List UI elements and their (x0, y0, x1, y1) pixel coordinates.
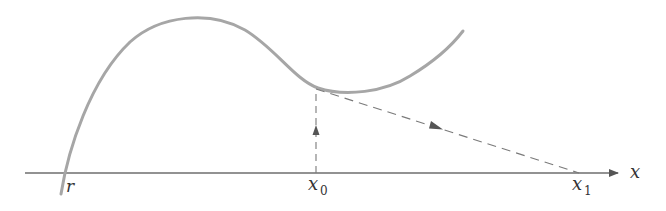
svg-text:0: 0 (320, 184, 328, 198)
svg-text:1: 1 (584, 184, 592, 198)
svg-text:x: x (572, 173, 582, 194)
root-label: r (66, 176, 75, 196)
axis-x-label: x (630, 161, 640, 182)
tangent-arrow-icon (429, 121, 443, 130)
up-arrow-icon (313, 125, 320, 135)
x1-label: x 1 (572, 173, 592, 198)
newton-method-diagram: x r x 0 x 1 (0, 0, 666, 211)
function-curve (61, 18, 463, 194)
x0-label: x 0 (308, 173, 328, 198)
svg-text:x: x (308, 173, 318, 194)
tangent-dashed-line (316, 89, 579, 173)
